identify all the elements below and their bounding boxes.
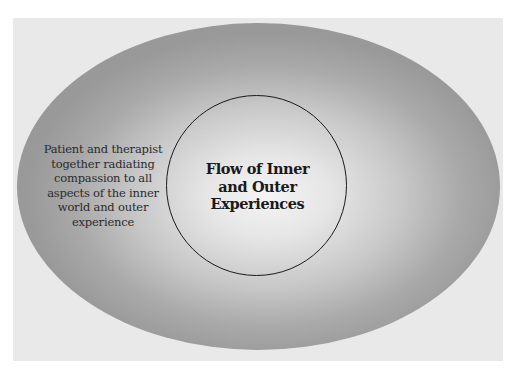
inner-circle-label: Flow of Inner and Outer Experiences (190, 160, 325, 213)
outer-label-line: compassion to all (38, 171, 168, 186)
outer-label-line: aspects of the inner (38, 186, 168, 201)
outer-label-line: together radiating (38, 157, 168, 172)
outer-label-line: experience (38, 215, 168, 230)
inner-label-line: and Outer (190, 178, 325, 196)
outer-ellipse-label: Patient and therapist together radiating… (38, 142, 168, 229)
inner-label-line: Experiences (190, 195, 325, 213)
inner-label-line: Flow of Inner (190, 160, 325, 178)
outer-label-line: Patient and therapist (38, 142, 168, 157)
outer-label-line: world and outer (38, 200, 168, 215)
